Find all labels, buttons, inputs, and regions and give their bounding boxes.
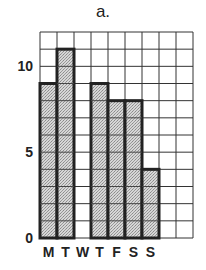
bar-3 — [91, 84, 108, 239]
bar-series — [40, 49, 159, 238]
x-tick-label: M — [43, 244, 55, 260]
y-axis-ticks: 0510 — [17, 58, 33, 246]
x-tick-label: S — [146, 244, 155, 260]
bar-0 — [40, 84, 57, 239]
bar-1 — [57, 49, 74, 238]
y-tick-label: 5 — [25, 144, 33, 160]
y-tick-label: 10 — [17, 58, 33, 74]
x-tick-label: S — [129, 244, 138, 260]
bar-chart: 0510 MTWTFSS — [0, 0, 206, 270]
y-tick-label: 0 — [25, 230, 33, 246]
x-tick-label: T — [61, 244, 70, 260]
x-tick-label: T — [95, 244, 104, 260]
x-tick-label: W — [76, 244, 90, 260]
x-tick-label: F — [112, 244, 121, 260]
x-axis-ticks: MTWTFSS — [43, 244, 156, 260]
